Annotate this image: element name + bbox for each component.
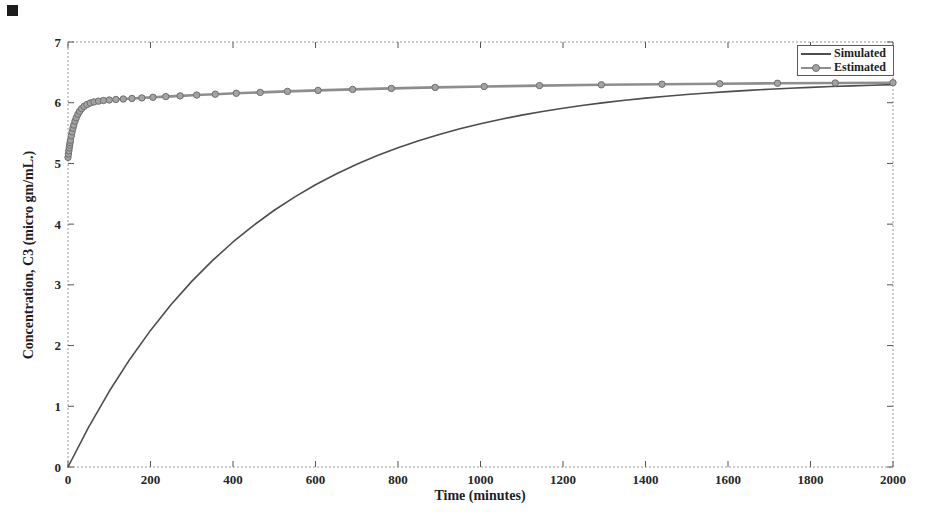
y-axis-label: Concentration, C3 (micro gm/mL.) bbox=[21, 151, 37, 360]
x-tick-label: 0 bbox=[65, 472, 72, 487]
scan-mark-square bbox=[7, 5, 18, 16]
x-tick-label: 2000 bbox=[880, 472, 906, 487]
series-marker-estimated bbox=[150, 94, 156, 100]
y-tick-label: 5 bbox=[55, 156, 62, 171]
x-tick-label: 1200 bbox=[550, 472, 576, 487]
series-marker-estimated bbox=[432, 84, 438, 90]
x-tick-label: 800 bbox=[388, 472, 408, 487]
axes-box bbox=[68, 42, 893, 467]
series-marker-estimated bbox=[832, 80, 838, 86]
legend-item-estimated: Estimated bbox=[801, 61, 890, 74]
y-tick-label: 3 bbox=[55, 277, 62, 292]
x-tick-label: 400 bbox=[223, 472, 243, 487]
series-marker-estimated bbox=[113, 96, 119, 102]
y-tick-label: 2 bbox=[55, 338, 62, 353]
legend-box: Simulated Estimated bbox=[797, 45, 894, 76]
y-tick-label: 0 bbox=[55, 460, 62, 475]
series-marker-estimated bbox=[177, 93, 183, 99]
series-marker-estimated bbox=[120, 96, 126, 102]
series-marker-estimated bbox=[315, 87, 321, 93]
series-marker-estimated bbox=[717, 81, 723, 87]
x-tick-label: 600 bbox=[306, 472, 326, 487]
series-marker-estimated bbox=[598, 82, 604, 88]
series-marker-estimated bbox=[163, 93, 169, 99]
series-line-estimated bbox=[68, 83, 893, 158]
series-marker-estimated bbox=[212, 91, 218, 97]
series-marker-estimated bbox=[536, 82, 542, 88]
series-marker-estimated bbox=[194, 92, 200, 98]
series-marker-estimated bbox=[129, 95, 135, 101]
series-marker-estimated bbox=[481, 83, 487, 89]
x-tick-label: 1400 bbox=[633, 472, 659, 487]
series-marker-estimated bbox=[284, 88, 290, 94]
series-marker-estimated bbox=[257, 89, 263, 95]
y-tick-label: 1 bbox=[55, 399, 62, 414]
series-marker-estimated bbox=[139, 95, 145, 101]
y-tick-label: 7 bbox=[55, 35, 62, 50]
series-marker-estimated bbox=[233, 90, 239, 96]
legend-label-estimated: Estimated bbox=[834, 61, 886, 74]
x-tick-label: 1600 bbox=[715, 472, 741, 487]
y-tick-label: 4 bbox=[55, 217, 62, 232]
figure-canvas: 0200400600800100012001400160018002000012… bbox=[0, 0, 926, 522]
series-marker-estimated bbox=[388, 85, 394, 91]
legend-label-simulated: Simulated bbox=[834, 47, 886, 60]
simulated-line-sample-icon bbox=[801, 47, 831, 60]
estimated-line-marker-sample-icon bbox=[801, 61, 831, 74]
series-marker-estimated bbox=[774, 80, 780, 86]
x-axis-label: Time (minutes) bbox=[434, 488, 525, 504]
x-tick-label: 1800 bbox=[798, 472, 824, 487]
plot-area: 0200400600800100012001400160018002000012… bbox=[0, 0, 926, 522]
series-marker-estimated bbox=[659, 81, 665, 87]
series-marker-estimated bbox=[349, 86, 355, 92]
series-marker-estimated bbox=[106, 97, 112, 103]
series-marker-estimated bbox=[890, 79, 896, 85]
y-tick-label: 6 bbox=[55, 95, 62, 110]
legend-item-simulated: Simulated bbox=[801, 47, 890, 60]
series-line-simulated bbox=[68, 85, 893, 467]
x-tick-label: 1000 bbox=[468, 472, 494, 487]
x-tick-label: 200 bbox=[141, 472, 161, 487]
